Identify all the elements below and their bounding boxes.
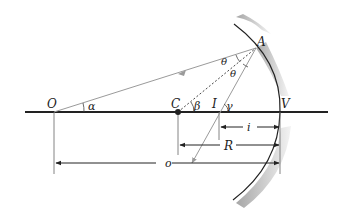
label-o: o — [165, 157, 172, 170]
label-i: i — [247, 121, 251, 134]
label-alpha: α — [88, 100, 96, 113]
mirror-shade-upper — [236, 14, 271, 34]
label-I: I — [211, 97, 217, 111]
label-beta: β — [193, 100, 200, 113]
label-R: R — [223, 139, 233, 153]
theta-arc-1 — [236, 55, 240, 62]
label-theta-reflected: θ — [230, 68, 236, 79]
label-O: O — [47, 97, 57, 111]
mirror-diagram: O C I V A α β γ θ θ i R o — [0, 0, 345, 224]
label-V: V — [281, 97, 291, 111]
label-theta-incident: θ — [221, 56, 227, 67]
alpha-arc — [83, 103, 84, 112]
label-A: A — [256, 35, 266, 49]
label-C: C — [171, 97, 180, 111]
incident-ray-arrow — [178, 70, 186, 76]
normal-line — [178, 48, 256, 112]
label-gamma: γ — [226, 100, 233, 113]
